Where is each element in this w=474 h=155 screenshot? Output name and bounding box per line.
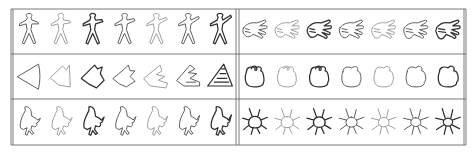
blob-sketch-icon bbox=[406, 66, 426, 87]
human-sketch-icon bbox=[211, 13, 232, 43]
hand-sketch-icon bbox=[275, 20, 299, 38]
hand-sketch-icon bbox=[404, 20, 428, 38]
bird-sketch-icon bbox=[147, 107, 167, 136]
human-sketch-icon bbox=[179, 13, 200, 43]
blob-sketch-icon bbox=[277, 66, 296, 87]
bird-sketch-icon bbox=[84, 107, 104, 136]
panel-birds bbox=[20, 107, 231, 136]
insect-sketch-icon bbox=[436, 109, 461, 135]
panel-triangles-to-spiral bbox=[18, 64, 233, 89]
triangle-sketch-icon bbox=[177, 65, 200, 86]
hand-sketch-icon bbox=[307, 20, 331, 38]
bird-sketch-icon bbox=[20, 107, 40, 136]
blob-sketch-icon bbox=[310, 66, 329, 87]
human-sketch-icon bbox=[115, 13, 135, 43]
insect-sketch-icon bbox=[371, 109, 396, 135]
shape-morphing-figure bbox=[0, 0, 474, 155]
human-sketch-icon bbox=[20, 13, 39, 43]
hand-sketch-icon bbox=[372, 20, 396, 38]
bird-sketch-icon bbox=[116, 107, 136, 136]
panel-insects bbox=[243, 109, 461, 135]
bird-sketch-icon bbox=[179, 107, 199, 136]
triangle-sketch-icon bbox=[208, 64, 233, 86]
triangle-sketch-icon bbox=[18, 64, 40, 89]
human-sketch-icon bbox=[51, 13, 70, 43]
insect-sketch-icon bbox=[339, 109, 364, 135]
bird-sketch-icon bbox=[211, 107, 231, 136]
insect-sketch-icon bbox=[403, 109, 428, 135]
human-sketch-icon bbox=[147, 13, 167, 43]
triangle-sketch-icon bbox=[50, 65, 70, 87]
blob-sketch-icon bbox=[374, 66, 393, 86]
insect-sketch-icon bbox=[243, 109, 268, 135]
triangle-sketch-icon bbox=[81, 65, 104, 88]
hand-sketch-icon bbox=[436, 20, 460, 39]
panel-human-figures bbox=[20, 13, 232, 43]
blob-sketch-icon bbox=[245, 66, 264, 87]
blob-sketch-icon bbox=[342, 67, 361, 87]
insect-sketch-icon bbox=[275, 109, 300, 135]
triangle-sketch-icon bbox=[113, 65, 135, 87]
hand-sketch-icon bbox=[243, 20, 267, 38]
triangle-sketch-icon bbox=[144, 65, 168, 88]
panel-frame bbox=[11, 9, 466, 145]
human-sketch-icon bbox=[83, 13, 103, 43]
insect-sketch-icon bbox=[307, 109, 332, 135]
panel-blobs bbox=[245, 66, 458, 87]
bird-sketch-icon bbox=[52, 107, 72, 136]
panel-hands bbox=[243, 20, 460, 39]
hand-sketch-icon bbox=[339, 20, 363, 38]
figure-canvas bbox=[0, 0, 474, 155]
blob-sketch-icon bbox=[438, 66, 458, 87]
